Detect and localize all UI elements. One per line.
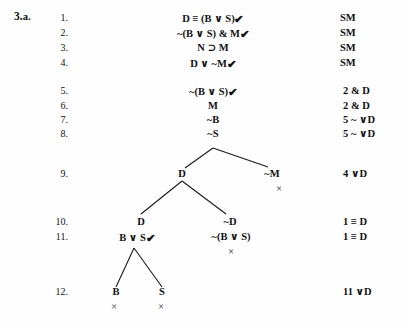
formula-text-6: M <box>208 100 218 111</box>
formula-text-4: D ∨ ~M <box>190 58 227 69</box>
exercise-number: 3. <box>14 10 23 22</box>
justification-line-9: 4 ∨D <box>343 168 367 180</box>
line-number-8: 8. <box>42 128 68 140</box>
formula-text-3: N ⊃ M <box>197 42 229 53</box>
tree-node-12-left: B <box>112 286 119 298</box>
tree-node-11-left: B ∨ S✔ <box>119 231 155 244</box>
justification-line-1: SM <box>340 12 356 24</box>
check-icon-2: ✔ <box>240 28 249 40</box>
tree-node-label-11-left: B ∨ S <box>119 232 146 243</box>
justification-line-4: SM <box>340 57 356 69</box>
line-number-5: 5. <box>42 85 68 97</box>
justification-line-3: SM <box>340 42 356 54</box>
tree-node-9-right: ~M <box>264 168 279 180</box>
formula-line-5: ~(B ∨ S)✔ <box>189 85 237 98</box>
closure-mark-12-right: × <box>158 302 164 312</box>
line-number-4: 4. <box>42 57 68 69</box>
justification-line-2: SM <box>340 27 356 39</box>
formula-line-4: D ∨ ~M✔ <box>190 57 236 70</box>
line-number-11: 11. <box>42 231 68 243</box>
formula-line-2: ~(B ∨ S) & M✔ <box>177 27 249 40</box>
justification-line-10: 1 ≡ D <box>343 216 367 228</box>
line-number-3: 3. <box>42 42 68 54</box>
branch-d-to-nd <box>182 181 226 214</box>
check-icon-4: ✔ <box>227 58 236 70</box>
tree-node-label-11-right: ~(B ∨ S) <box>211 231 250 242</box>
formula-text-7: ~B <box>207 114 219 125</box>
branch-bvs-to-s <box>134 248 162 287</box>
exercise-letter: a. <box>23 11 31 22</box>
formula-line-3: N ⊃ M <box>197 42 229 54</box>
justification-line-12: 11 ∨D <box>343 286 372 298</box>
branch-bvs-to-b <box>116 248 134 287</box>
formula-text-5: ~(B ∨ S) <box>189 86 228 97</box>
closure-mark-12-left: × <box>111 302 117 312</box>
tree-node-12-right: S <box>159 286 165 298</box>
tree-node-10-left: D <box>137 216 145 228</box>
tree-node-10-right: ~D <box>223 216 236 228</box>
tree-node-9-left: D <box>178 168 186 180</box>
tree-node-label-9-right: ~M <box>264 168 279 179</box>
formula-text-2: ~(B ∨ S) & M <box>177 28 240 39</box>
branch-s-to-d <box>185 148 213 168</box>
formula-line-8: ~S <box>207 128 218 140</box>
line-number-1: 1. <box>42 12 68 24</box>
tableau-proof-page: 3.a. 1. 2. 3. 4. 5. 6. 7. 8. 9. 10. 11. … <box>0 0 407 325</box>
line-number-7: 7. <box>42 114 68 126</box>
formula-text-8: ~S <box>207 128 218 139</box>
justification-line-7: 5 ~ ∨D <box>343 114 375 126</box>
check-icon-1: ✔ <box>234 13 243 25</box>
tree-node-label-12-right: S <box>159 286 165 297</box>
exercise-label: 3.a. <box>14 10 31 23</box>
check-icon-11-left: ✔ <box>146 232 155 244</box>
tree-node-11-right: ~(B ∨ S) <box>211 231 250 243</box>
check-icon-5: ✔ <box>228 86 237 98</box>
tree-node-label-9-left: D <box>178 168 186 179</box>
justification-line-8: 5 ~ ∨D <box>343 128 375 140</box>
justification-line-5: 2 & D <box>343 85 370 97</box>
tree-node-label-10-left: D <box>137 216 145 227</box>
justification-line-11: 1 ≡ D <box>343 231 367 243</box>
tree-node-label-12-left: B <box>112 286 119 297</box>
line-number-6: 6. <box>42 100 68 112</box>
formula-line-1: D ≡ (B ∨ S)✔ <box>182 12 243 25</box>
branch-d-to-d <box>141 181 182 214</box>
tree-node-label-10-right: ~D <box>223 216 236 227</box>
closure-mark-11-right: × <box>228 247 234 257</box>
formula-text-1: D ≡ (B ∨ S) <box>182 13 234 24</box>
formula-line-7: ~B <box>207 114 219 126</box>
justification-line-6: 2 & D <box>343 100 370 112</box>
closure-mark-9-right: × <box>276 184 282 194</box>
line-number-10: 10. <box>42 216 68 228</box>
branch-s-to-nm <box>213 148 268 167</box>
line-number-2: 2. <box>42 27 68 39</box>
formula-line-6: M <box>208 100 218 112</box>
line-number-9: 9. <box>42 168 68 180</box>
line-number-12: 12. <box>42 286 68 298</box>
